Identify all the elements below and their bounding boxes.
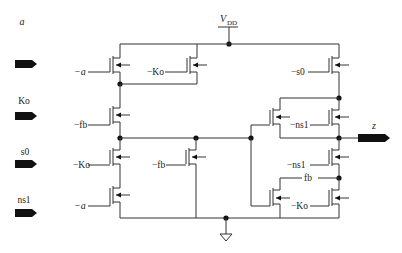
vdd-supply: V DD	[218, 13, 238, 47]
arrow-icon	[192, 155, 197, 160]
arrow-icon	[116, 155, 121, 160]
gate-label: −fb	[152, 160, 166, 170]
pmos-transistor-t3: −fb	[74, 84, 130, 138]
pmos-transistor-t2: −Ko	[147, 44, 207, 84]
input-label-s0: s0	[21, 147, 30, 157]
circuit-schematic: a Ko s0 ns1 V DD −a	[0, 0, 402, 253]
pmos-transistor-t8: −ns1	[290, 98, 349, 138]
schematic-svg: a Ko s0 ns1 V DD −a	[0, 0, 402, 253]
nmos-transistor-t9: −ns1	[287, 138, 349, 178]
arrow-icon	[335, 115, 340, 120]
gate-label: −Ko	[147, 67, 164, 77]
output-port-z: z	[339, 120, 390, 142]
gate-label: −Ko	[73, 160, 90, 170]
input-port-a: a	[15, 16, 37, 68]
arrow-icon	[116, 113, 121, 118]
pmos-transistor-t4: −Ko	[73, 138, 130, 188]
gate-label: −s0	[291, 67, 305, 77]
arrow-icon	[335, 196, 340, 201]
arrow-icon	[276, 115, 281, 120]
gate-label: −a	[74, 66, 86, 77]
port-arrow-icon	[15, 209, 37, 217]
output-label-z: z	[371, 120, 376, 131]
port-arrow-icon	[358, 134, 390, 142]
gate-label: −ns1	[290, 120, 309, 130]
input-label-Ko: Ko	[18, 96, 30, 106]
vdd-subscript: DD	[227, 19, 237, 27]
gate-label: −a	[74, 200, 86, 211]
pmos-transistor-mid-upper	[251, 98, 339, 138]
fb-feedback-net: fb	[280, 173, 339, 190]
arrow-icon	[276, 196, 281, 201]
input-port-ns1: ns1	[15, 195, 37, 217]
arrow-icon	[335, 63, 340, 68]
nmos-transistor-t11: −Ko	[291, 178, 349, 218]
gate-label: −fb	[74, 120, 88, 130]
gate-label: −ns1	[287, 160, 306, 170]
input-port-s0: s0	[15, 147, 37, 168]
port-arrow-icon	[15, 60, 37, 68]
fb-label: fb	[304, 173, 312, 183]
arrow-icon	[116, 63, 121, 68]
pmos-transistor-t1: −a	[74, 44, 130, 84]
gate-label: −Ko	[291, 201, 308, 211]
nmos-transistor-t10	[251, 188, 290, 218]
port-arrow-icon	[15, 160, 37, 168]
input-label-ns1: ns1	[17, 195, 30, 205]
pmos-transistor-t5: −fb	[152, 138, 206, 218]
input-label-a: a	[20, 16, 25, 27]
pmos-transistor-t7: −s0	[291, 44, 349, 98]
pmos-transistor-t6: −a	[74, 186, 130, 218]
port-arrow-icon	[15, 112, 37, 120]
arrow-icon	[335, 155, 340, 160]
arrow-icon	[193, 63, 198, 68]
input-port-Ko: Ko	[15, 96, 37, 120]
ground-icon	[220, 218, 232, 241]
arrow-icon	[116, 193, 121, 198]
